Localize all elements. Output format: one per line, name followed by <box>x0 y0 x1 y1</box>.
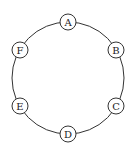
node-a: A <box>60 14 76 30</box>
node-f: F <box>12 42 28 58</box>
node-label: B <box>112 45 119 56</box>
cycle-diagram: A B C D E F <box>0 0 132 152</box>
node-b: B <box>108 42 124 58</box>
node-label: F <box>17 45 24 56</box>
node-label: C <box>112 101 120 112</box>
cycle-ring <box>12 22 124 134</box>
node-label: A <box>63 17 72 28</box>
node-d: D <box>60 126 76 142</box>
node-label: E <box>16 101 23 112</box>
node-e: E <box>12 98 28 114</box>
node-c: C <box>108 98 124 114</box>
node-label: D <box>64 129 72 140</box>
